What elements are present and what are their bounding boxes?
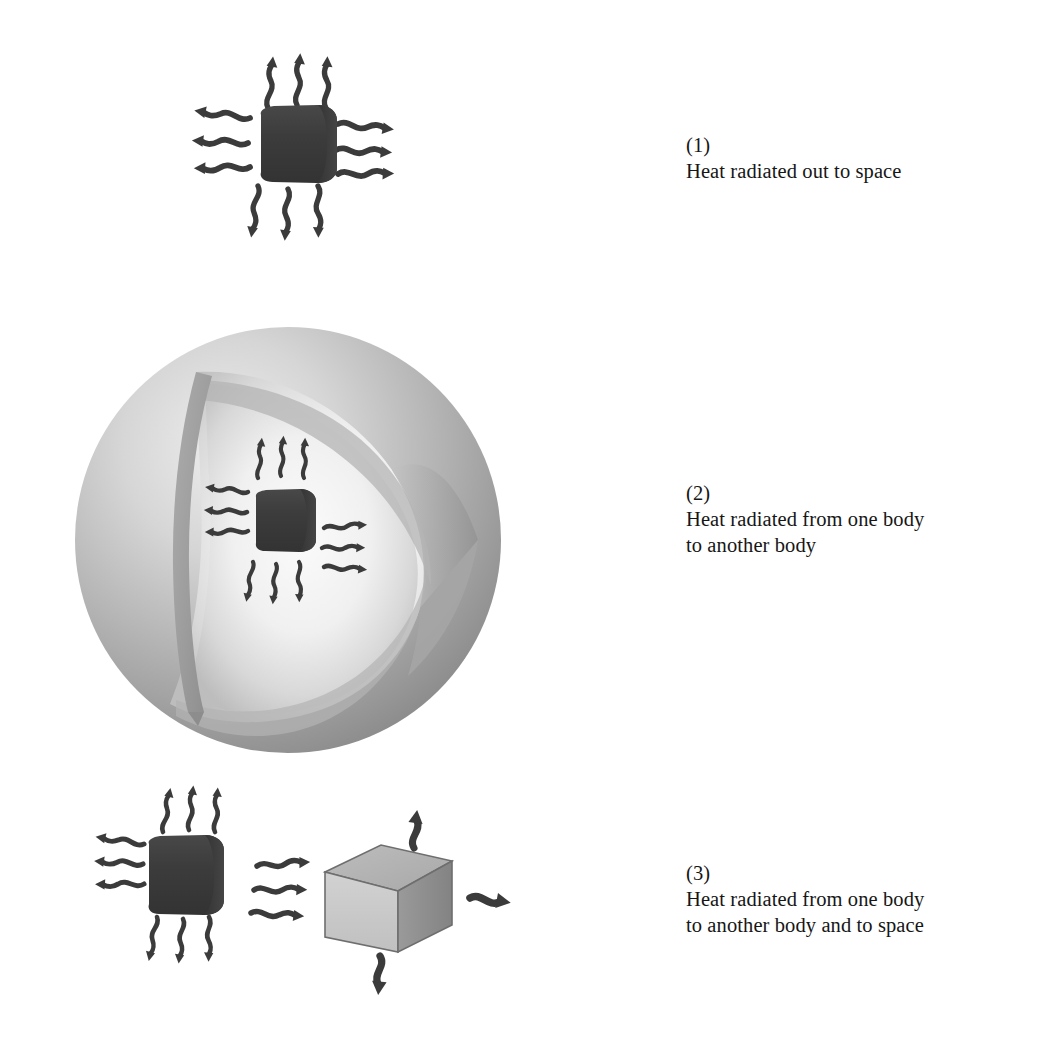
sphere-cut-edge-band (173, 372, 212, 712)
caption-3-number: (3) (686, 860, 1016, 886)
figure1-radiating-cylinder (261, 105, 337, 183)
enclosing-sphere-outer (75, 327, 501, 753)
caption-3-line-2: to another body and to space (686, 912, 1016, 938)
figure3-arrows-left (94, 832, 145, 890)
figure3-arrows-down (144, 916, 214, 964)
sphere-wedge-face-lower (408, 540, 478, 676)
figure3-radiating-cylinder (149, 835, 224, 915)
figure3-box-arrow-down (372, 956, 388, 995)
figure2-arrows-down (242, 561, 303, 604)
diagram-page: (1) Heat radiated out to space (2) Heat … (0, 0, 1043, 1045)
caption-2-number: (2) (686, 480, 1016, 506)
figure3-box-arrow-up (407, 809, 424, 848)
caption-figure-3: (3) Heat radiated from one body to anoth… (686, 860, 1016, 938)
sphere-cutaway-cavity (170, 372, 475, 723)
figure3-arrows-to-box (251, 856, 311, 922)
caption-figure-2: (2) Heat radiated from one body to anoth… (686, 480, 1016, 558)
sphere-inner-wall (186, 383, 418, 714)
caption-2-line-2: to another body (686, 532, 1016, 558)
figure3-box-arrow-right (469, 890, 511, 909)
figure1-arrows-up (262, 53, 333, 109)
figure2-arrows-up (254, 435, 310, 478)
caption-1-number: (1) (686, 132, 1016, 158)
figure1-arrows-left (192, 105, 251, 174)
figure2-arrows-right (322, 520, 367, 574)
figure1-arrows-right (336, 118, 395, 180)
sphere-cut-edge-tip (188, 712, 204, 726)
figure-2-group (75, 327, 501, 753)
caption-1-line-1: Heat radiated out to space (686, 158, 1016, 184)
caption-2-line-1: Heat radiated from one body (686, 506, 1016, 532)
sphere-cut-shadow-lower (176, 566, 428, 736)
sphere-cut-shadow-upper (199, 380, 431, 586)
figure-1-group (192, 53, 395, 241)
figure1-arrows-down (246, 185, 324, 241)
figure2-arrows-left (204, 483, 249, 537)
receiving-box (325, 845, 452, 952)
figure2-radiating-cylinder (256, 489, 316, 552)
figure3-arrows-up (158, 785, 222, 833)
caption-3-line-1: Heat radiated from one body (686, 886, 1016, 912)
figure-3-group (94, 785, 512, 995)
caption-figure-1: (1) Heat radiated out to space (686, 132, 1016, 184)
sphere-wedge-face-upper (392, 464, 478, 608)
